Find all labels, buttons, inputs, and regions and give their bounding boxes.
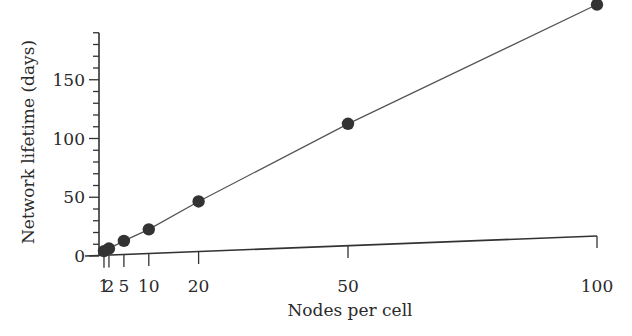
chart: 050100150 125102050100 Nodes per cell Ne… bbox=[0, 0, 632, 336]
x-tick-label: 10 bbox=[138, 276, 160, 296]
x-axis-line bbox=[85, 236, 597, 256]
y-tick-label: 0 bbox=[74, 246, 85, 266]
x-tick-label: 100 bbox=[581, 276, 613, 296]
data-point bbox=[103, 242, 115, 254]
x-axis-title: Nodes per cell bbox=[287, 300, 412, 320]
data-point bbox=[591, 0, 603, 11]
data-point bbox=[143, 223, 155, 235]
x-tick-label: 5 bbox=[118, 276, 129, 296]
x-tick-label: 2 bbox=[104, 276, 115, 296]
x-tick-label: 50 bbox=[337, 276, 359, 296]
data-series bbox=[98, 0, 603, 257]
x-axis: 125102050100 bbox=[85, 236, 613, 296]
data-point bbox=[118, 235, 130, 247]
y-tick-label: 100 bbox=[53, 129, 85, 149]
data-point bbox=[342, 118, 354, 130]
y-axis: 050100150 bbox=[53, 33, 99, 266]
y-tick-label: 50 bbox=[63, 187, 85, 207]
y-axis-title: Network lifetime (days) bbox=[18, 40, 38, 244]
x-tick-label: 20 bbox=[188, 276, 210, 296]
data-point bbox=[192, 195, 204, 207]
y-tick-label: 150 bbox=[53, 70, 85, 90]
